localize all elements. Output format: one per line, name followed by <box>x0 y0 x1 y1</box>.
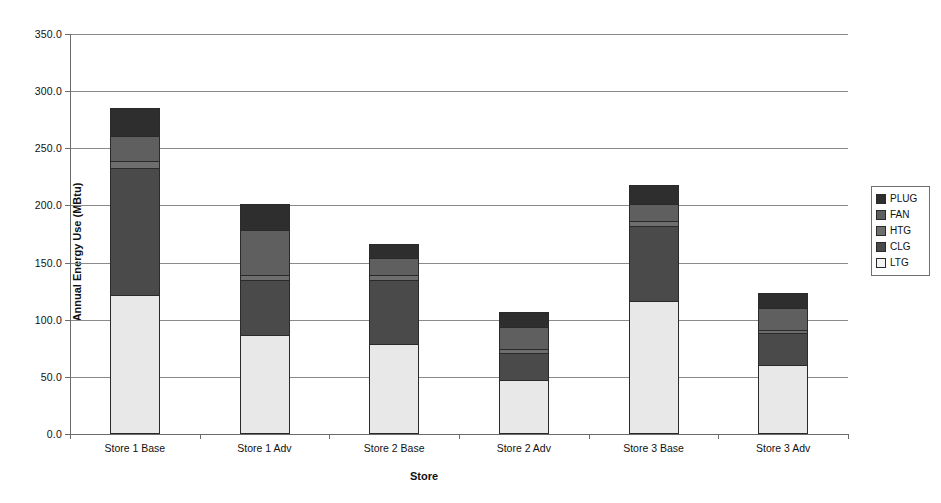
bar-segment-clg[interactable] <box>240 280 290 336</box>
bar-segment-ltg[interactable] <box>629 301 679 434</box>
x-axis-label: Store 1 Base <box>70 442 200 454</box>
y-tick-label: 250.0 <box>35 142 62 154</box>
legend-swatch-ltg <box>876 258 886 268</box>
bar-group[interactable] <box>369 34 419 434</box>
bar-group[interactable] <box>629 34 679 434</box>
legend-item[interactable]: HTG <box>876 223 926 239</box>
y-tick-label: 0.0 <box>47 428 62 440</box>
y-tick-label: 150.0 <box>35 257 62 269</box>
bar-segment-fan[interactable] <box>758 308 808 331</box>
bar-segment-fan[interactable] <box>629 204 679 222</box>
bar-segment-clg[interactable] <box>369 280 419 345</box>
legend-label: PLUG <box>890 194 917 204</box>
bar-segment-plug[interactable] <box>110 108 160 138</box>
x-tick-mark <box>329 434 330 439</box>
x-axis-label: Store 3 Adv <box>718 442 848 454</box>
bar-stack <box>758 293 808 434</box>
x-axis-label: Store 2 Base <box>329 442 459 454</box>
x-tick-mark <box>848 434 849 439</box>
legend-label: HTG <box>890 226 911 236</box>
y-tick-label: 350.0 <box>35 28 62 40</box>
bar-segment-plug[interactable] <box>758 293 808 309</box>
legend-item[interactable]: CLG <box>876 239 926 255</box>
legend-item[interactable]: PLUG <box>876 191 926 207</box>
chart-legend: PLUGFANHTGCLGLTG <box>871 186 930 276</box>
x-tick-mark <box>718 434 719 439</box>
bar-segment-ltg[interactable] <box>110 295 160 434</box>
x-tick-mark <box>589 434 590 439</box>
legend-swatch-fan <box>876 210 886 220</box>
x-axis-label: Store 3 Base <box>589 442 719 454</box>
legend-swatch-clg <box>876 242 886 252</box>
legend-swatch-htg <box>876 226 886 236</box>
bar-segment-plug[interactable] <box>240 204 290 231</box>
bar-stack <box>369 244 419 434</box>
bar-group[interactable] <box>240 34 290 434</box>
bar-segment-fan[interactable] <box>499 327 549 350</box>
bar-group[interactable] <box>110 34 160 434</box>
bar-stack <box>240 204 290 434</box>
legend-label: LTG <box>890 258 909 268</box>
bar-segment-fan[interactable] <box>240 230 290 276</box>
bar-segment-clg[interactable] <box>758 333 808 366</box>
x-axis-label: Store 1 Adv <box>200 442 330 454</box>
x-tick-mark <box>70 434 71 439</box>
bar-stack <box>110 108 160 434</box>
bar-segment-plug[interactable] <box>629 185 679 204</box>
y-tick-label: 50.0 <box>41 371 62 383</box>
bar-stack <box>629 185 679 434</box>
bar-segment-ltg[interactable] <box>499 380 549 434</box>
bar-segment-fan[interactable] <box>369 258 419 276</box>
stacked-bar-chart: Annual Energy Use (MBtu) 0.050.0100.0150… <box>0 0 941 503</box>
bar-segment-clg[interactable] <box>110 168 160 296</box>
x-tick-mark <box>200 434 201 439</box>
bar-segment-plug[interactable] <box>369 244 419 259</box>
bar-segment-clg[interactable] <box>499 353 549 382</box>
legend-swatch-plug <box>876 194 886 204</box>
bar-segment-plug[interactable] <box>499 312 549 328</box>
bar-group[interactable] <box>758 34 808 434</box>
legend-label: FAN <box>890 210 909 220</box>
legend-label: CLG <box>890 242 911 252</box>
legend-item[interactable]: LTG <box>876 255 926 271</box>
bar-segment-ltg[interactable] <box>369 344 419 434</box>
legend-item[interactable]: FAN <box>876 207 926 223</box>
bar-segment-ltg[interactable] <box>240 335 290 434</box>
bar-group[interactable] <box>499 34 549 434</box>
y-tick-label: 300.0 <box>35 85 62 97</box>
x-axis-title: Store <box>0 470 848 482</box>
bar-segment-clg[interactable] <box>629 226 679 303</box>
y-tick-label: 200.0 <box>35 199 62 211</box>
bar-segment-ltg[interactable] <box>758 365 808 434</box>
bar-segment-fan[interactable] <box>110 136 160 161</box>
bar-stack <box>499 312 549 434</box>
x-axis-label: Store 2 Adv <box>459 442 589 454</box>
x-tick-mark <box>459 434 460 439</box>
y-tick-label: 100.0 <box>35 314 62 326</box>
bars-layer <box>70 34 848 434</box>
